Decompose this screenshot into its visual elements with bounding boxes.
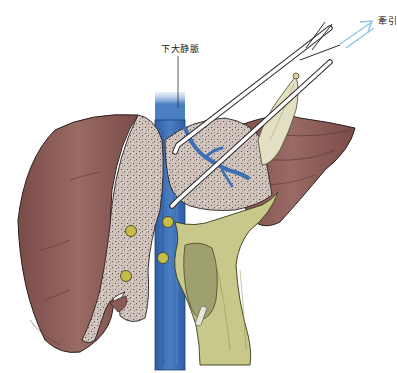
hepatic-hilum-ligament [175,192,278,365]
traction-label: 牽引 [378,14,397,27]
traction-arrow-icon [340,21,374,48]
ivc-label: 下大静脈 [161,42,199,55]
liver-surgery-illustration [0,0,397,373]
clip-icon [158,253,169,264]
clip-icon [163,217,174,228]
illustration: 下大静脈 牽引 [0,0,397,373]
clip-icon [121,271,132,282]
clip-icon [293,73,299,79]
clip-icon [126,226,137,237]
